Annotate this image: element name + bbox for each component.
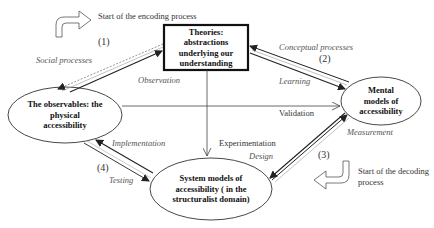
system-models-line-2: accessibility ( in the: [172, 184, 249, 195]
learning-label: Learning: [279, 76, 310, 86]
theories-line-4: understanding: [179, 58, 234, 69]
process-number-2: (2): [319, 54, 331, 64]
experimentation-label: Experimentation: [219, 138, 276, 148]
mental-models-line-1: Mental: [359, 85, 402, 96]
observables-node: The observables: the physical accessibil…: [10, 90, 120, 140]
theories-line-2: abstractions: [179, 37, 234, 48]
system-models-line-3: structuralist domain): [172, 194, 249, 205]
implementation-label: Implementation: [112, 138, 165, 148]
decoding-start-arrow-icon: [314, 161, 349, 189]
process-number-1: (1): [98, 37, 110, 47]
observables-line-2: physical: [27, 110, 102, 121]
system-models-node: System models of accessibility ( in the …: [152, 164, 270, 214]
process-number-3: (3): [318, 150, 330, 160]
observables-line-3: accessibility: [27, 120, 102, 131]
theories-line-3: underlying our: [179, 48, 234, 59]
accessibility-model-diagram: Theories: abstractions underlying our un…: [0, 0, 434, 228]
system-models-line-1: System models of: [172, 173, 249, 184]
theories-line-1: Theories:: [179, 27, 234, 38]
design-arrow: [270, 113, 345, 178]
measurement-arrow: [272, 115, 347, 180]
testing-label: Testing: [109, 175, 133, 185]
encoding-start-label: Start of the encoding process: [98, 11, 197, 21]
mental-models-node: Mental models of accessibility: [342, 80, 420, 122]
measurement-label: Measurement: [347, 127, 393, 137]
conceptual-processes-label: Conceptual processes: [279, 42, 353, 52]
observables-line-1: The observables: the: [27, 99, 102, 110]
theories-node: Theories: abstractions underlying our un…: [164, 25, 248, 70]
decoding-start-label-line-2: process: [358, 177, 384, 187]
process-number-4: (4): [97, 163, 109, 173]
encoding-start-arrow-icon: [56, 11, 91, 37]
observation-label: Observation: [138, 75, 180, 85]
social-processes-label: Social processes: [36, 55, 92, 65]
decoding-start-label-line-1: Start of the decoding: [358, 166, 429, 176]
validation-label: Validation: [279, 108, 314, 118]
mental-models-line-2: models of: [359, 96, 402, 107]
design-label: Design: [249, 151, 273, 161]
mental-models-line-3: accessibility: [359, 106, 402, 117]
